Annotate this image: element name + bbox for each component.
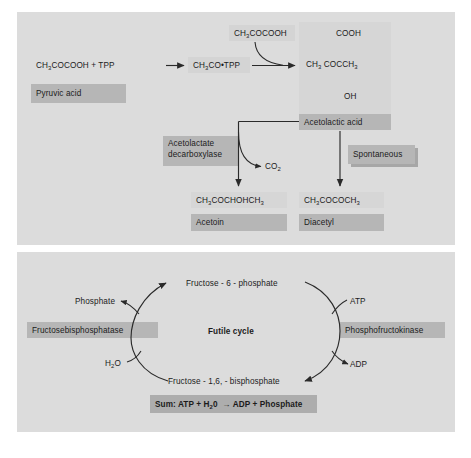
node-acetoin-label-text: Acetoin <box>196 218 224 227</box>
enzyme-phosphofructokinase-text: Phosphofructokinase <box>345 326 423 335</box>
node-hydroxyethyl-tpp: CH3CO•TPP <box>188 57 250 73</box>
node-diacetyl-label: Diacetyl <box>299 214 384 231</box>
node-acetoin-formula-text: CH3COCHOHCH3 <box>196 196 264 205</box>
node-fructose-16-bisphosphate: Fructose - 1,6, - bisphosphate <box>168 377 280 387</box>
node-pyruvate-second: CH3COCOOH <box>229 25 295 41</box>
node-acetoin-label: Acetoin <box>191 214 287 231</box>
node-pyruvate-tpp-label: Pyruvic acid <box>31 84 126 103</box>
node-acetolactate-oh: OH <box>344 92 356 102</box>
node-diacetyl-label-text: Diacetyl <box>304 218 334 227</box>
node-acetolactate-label-text: Acetolactic acid <box>304 118 363 127</box>
node-diacetyl-formula: CH3COCOCH3 <box>299 192 384 208</box>
enzyme-spontaneous-text: Spontaneous <box>353 150 402 159</box>
futile-cycle-sum: Sum: ATP + H20 → ADP + Phosphate <box>150 395 317 413</box>
enzyme-acetolactate-decarboxylase-line2: decarboxylase <box>168 149 234 160</box>
node-acetolactate-cooh: COOH <box>336 29 361 39</box>
enzyme-acetolactate-decarboxylase: Acetolactate decarboxylase <box>163 136 239 166</box>
figure-canvas: CH3COCOOH + TPP Pyruvic acid CH3CO•TPP C… <box>0 0 471 458</box>
enzyme-phosphofructokinase: Phosphofructokinase <box>340 322 445 338</box>
node-phosphate: Phosphate <box>75 297 115 307</box>
node-pyruvate-tpp-label-text: Pyruvic acid <box>36 89 81 98</box>
enzyme-acetolactate-decarboxylase-line1: Acetolactate <box>168 138 234 149</box>
node-acetolactate-backbone: CH3 COCCH3 <box>306 60 358 70</box>
node-pyruvate-tpp-formula-text: CH3COCOOH + TPP <box>36 61 115 70</box>
node-pyruvate-tpp-formula: CH3COCOOH + TPP <box>31 57 166 73</box>
node-pyruvate-second-text: CH3COCOOH <box>234 29 287 38</box>
node-adp: ADP <box>350 360 367 370</box>
node-hydroxyethyl-tpp-text: CH3CO•TPP <box>193 61 240 70</box>
node-acetolactate-label: Acetolactic acid <box>299 114 391 130</box>
node-fructose-6-phosphate: Fructose - 6 - phosphate <box>186 279 278 289</box>
futile-cycle-title: Futile cycle <box>208 327 254 337</box>
enzyme-fructosebisphosphatase-text: Fructosebisphosphatase <box>32 326 123 335</box>
node-diacetyl-formula-text: CH3COCOCH3 <box>304 196 360 205</box>
futile-cycle-sum-text: Sum: ATP + H20 → ADP + Phosphate <box>155 400 303 409</box>
node-acetoin-formula: CH3COCHOHCH3 <box>191 192 287 208</box>
enzyme-fructosebisphosphatase: Fructosebisphosphatase <box>27 322 158 338</box>
enzyme-spontaneous: Spontaneous <box>348 145 415 164</box>
node-water: H2O <box>105 359 121 369</box>
node-atp: ATP <box>350 297 366 307</box>
node-co2: CO2 <box>265 162 281 172</box>
